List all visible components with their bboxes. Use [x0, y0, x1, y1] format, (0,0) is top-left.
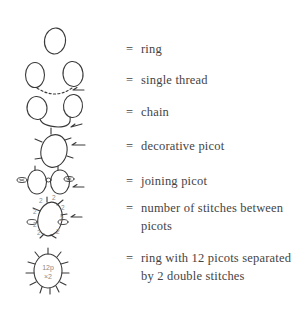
decorative-picot-icon — [35, 128, 85, 170]
ring-center-text: 12p ×2 — [42, 264, 54, 280]
equals-sign: = — [126, 40, 138, 58]
legend-label: chain — [141, 103, 304, 121]
arrow-icon — [72, 143, 85, 146]
equals-sign: = — [126, 137, 138, 155]
single-thread-icon — [26, 61, 85, 94]
equals-sign: = — [126, 103, 138, 121]
stitch-count-icon — [27, 197, 82, 238]
arrow-icon — [71, 124, 82, 127]
equals-sign: = — [126, 172, 138, 190]
legend-label: joining picot — [141, 172, 304, 190]
svg-text:2: 2 — [33, 221, 37, 228]
legend-label: number of stitches between picots — [141, 199, 304, 235]
svg-text:12p: 12p — [42, 264, 54, 272]
equals-sign: = — [126, 71, 138, 89]
arrow-icon — [73, 185, 84, 188]
ring-12-picots-icon — [26, 248, 69, 294]
svg-text:2: 2 — [37, 229, 41, 236]
ring-icon — [43, 27, 67, 56]
legend-label: ring with 12 picots separated by 2 doubl… — [141, 249, 304, 285]
arrow-icon — [71, 215, 82, 218]
svg-text:2: 2 — [52, 194, 56, 201]
legend-label: single thread — [141, 71, 304, 89]
equals-sign: = — [126, 249, 138, 267]
svg-text:2: 2 — [60, 215, 64, 222]
legend-label: ring — [141, 40, 304, 58]
arrow-icon — [73, 88, 84, 91]
svg-text:2: 2 — [39, 197, 43, 204]
chain-icon — [26, 94, 84, 127]
svg-text:2: 2 — [56, 228, 60, 235]
svg-text:2: 2 — [33, 208, 37, 215]
svg-text:×2: ×2 — [44, 273, 52, 280]
joining-picot-icon — [17, 166, 84, 194]
stitch-count-numbers: 2 2 2 2 2 2 2 2 — [33, 194, 65, 236]
equals-sign: = — [126, 199, 138, 217]
svg-text:2: 2 — [61, 204, 65, 211]
legend-label: decorative picot — [141, 137, 304, 155]
